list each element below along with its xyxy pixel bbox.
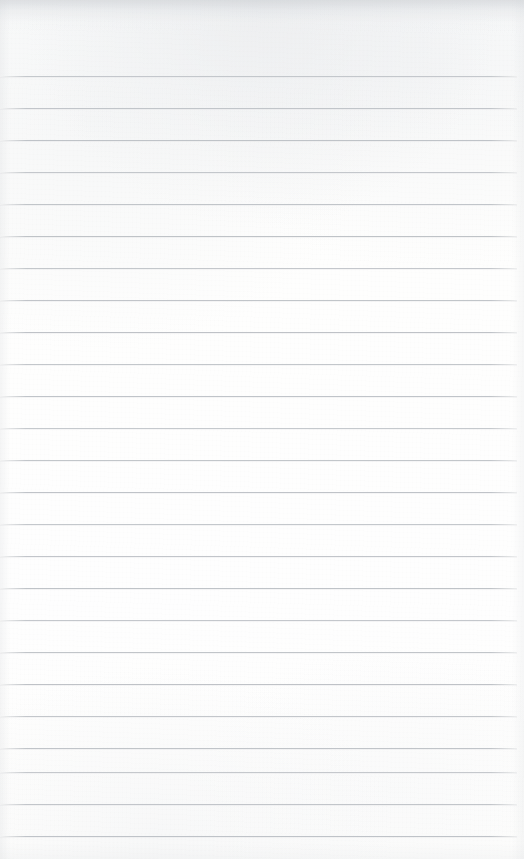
notepad-page (0, 0, 524, 859)
writing-area[interactable] (0, 0, 524, 859)
